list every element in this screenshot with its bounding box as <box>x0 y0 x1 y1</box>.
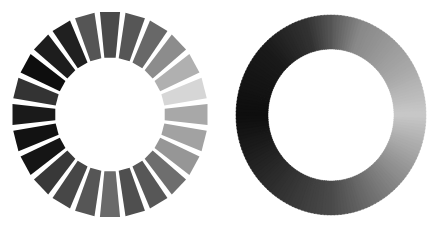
gradient-ring <box>236 15 426 215</box>
segmented-ring <box>13 12 208 217</box>
ring-segment <box>100 171 120 217</box>
ring-segment <box>100 12 120 58</box>
figure-canvas <box>0 0 433 232</box>
ring-segment <box>13 104 56 125</box>
ring-segment <box>165 104 208 125</box>
